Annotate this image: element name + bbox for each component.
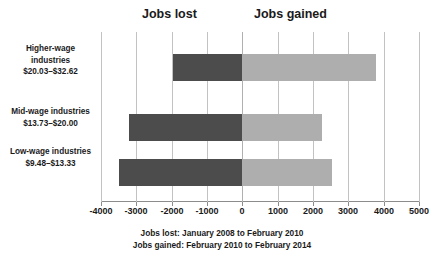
category-label-line-2: $13.73–$20.00: [0, 118, 101, 130]
chart-footnotes: Jobs lost: January 2008 to February 2010…: [0, 228, 444, 251]
category-label-low-wage: Low-wage industries $9.48–$13.33: [0, 146, 101, 169]
bar-row: [101, 54, 419, 81]
chart-header-band: Jobs lost Jobs gained: [0, 7, 444, 25]
plot-area: [101, 32, 419, 202]
bar-segment-jobs-gained: [242, 114, 322, 141]
bar-segment-jobs-gained: [242, 159, 332, 186]
category-label-line-2: industries: [0, 55, 101, 67]
bar-row: [101, 114, 419, 141]
bar-segment-jobs-lost: [119, 159, 243, 186]
gridline-5000: [419, 32, 420, 202]
footnote-jobs-gained-period: Jobs gained: February 2010 to February 2…: [0, 240, 444, 252]
category-label-line-1: Mid-wage industries: [0, 106, 101, 118]
jobs-lost-gained-bar-chart: Jobs lost Jobs gained Higher-wage indust…: [0, 0, 444, 256]
bar-row: [101, 159, 419, 186]
bar-segment-jobs-lost: [129, 114, 242, 141]
axis-bottom-spine: [101, 201, 419, 202]
x-tick-label-5000: 5000: [396, 206, 442, 216]
category-label-line-1: Low-wage industries: [0, 146, 101, 158]
header-jobs-lost: Jobs lost: [142, 7, 197, 21]
category-label-line-2: $9.48–$13.33: [0, 158, 101, 170]
category-label-higher-wage: Higher-wage industries $20.03–$32.62: [0, 43, 101, 78]
header-jobs-gained: Jobs gained: [254, 7, 327, 21]
bar-segment-jobs-gained: [242, 54, 376, 81]
bar-segment-jobs-lost: [173, 54, 242, 81]
category-label-line-1: Higher-wage: [0, 43, 101, 55]
footnote-jobs-lost-period: Jobs lost: January 2008 to February 2010: [0, 228, 444, 240]
category-label-line-3: $20.03–$32.62: [0, 66, 101, 78]
category-label-mid-wage: Mid-wage industries $13.73–$20.00: [0, 106, 101, 129]
